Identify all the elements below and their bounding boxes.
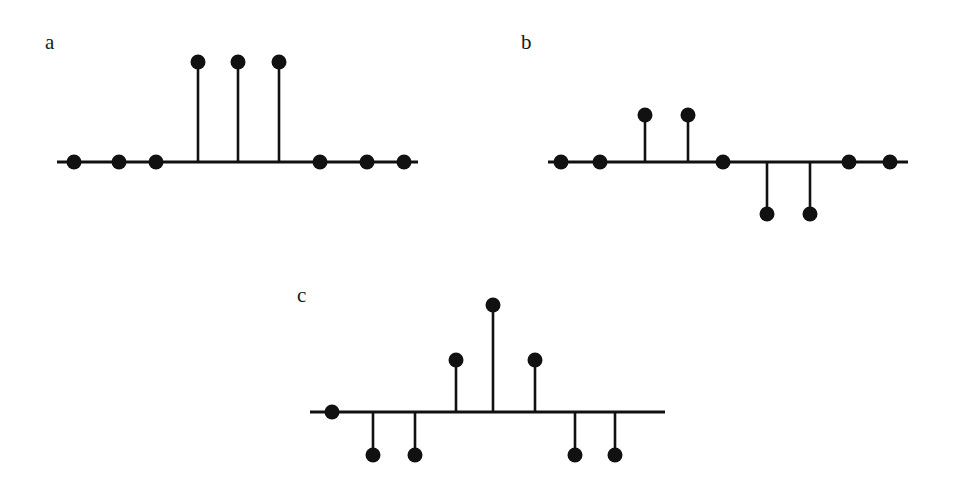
stem-dot	[366, 448, 381, 463]
panel-c-plot	[0, 0, 967, 491]
stem-dot	[568, 448, 583, 463]
stem-dot	[325, 405, 340, 420]
stem-dot	[486, 298, 501, 313]
stem-dot	[408, 448, 423, 463]
stem-dot	[608, 448, 623, 463]
stem-plot-figure: a b c	[0, 0, 967, 491]
stem-dot	[449, 353, 464, 368]
stem-dot	[528, 353, 543, 368]
